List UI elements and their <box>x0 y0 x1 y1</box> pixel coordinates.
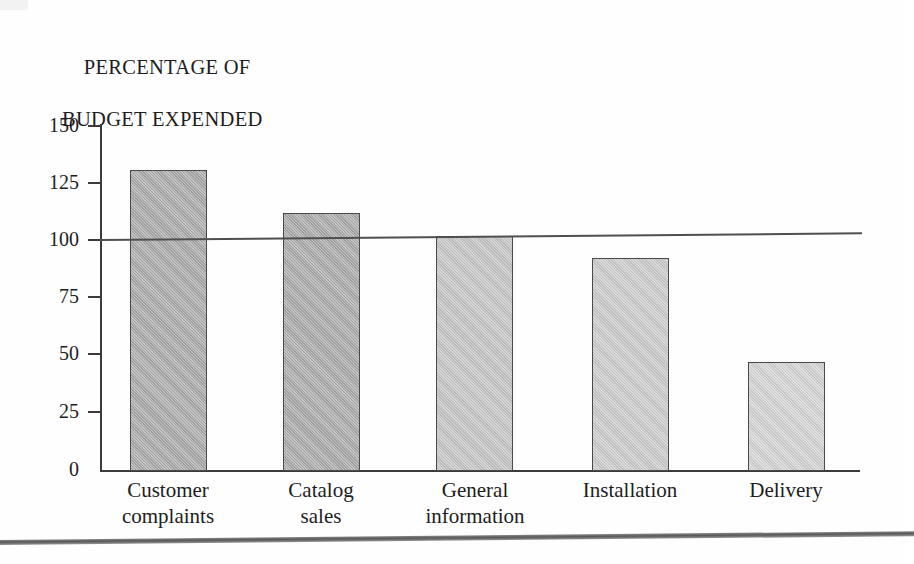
bar-delivery <box>748 362 825 471</box>
tick-mark-icon <box>88 296 101 298</box>
tick-mark-icon <box>88 411 101 413</box>
bar-installation <box>592 258 669 471</box>
bar-general-information <box>436 236 513 471</box>
y-tick-label: 50 <box>23 343 79 363</box>
category-label-line-1: Customer <box>127 478 209 502</box>
tick-mark-icon <box>88 182 101 184</box>
tick-mark-icon <box>88 125 101 127</box>
category-label-line-1: Installation <box>583 478 677 502</box>
y-tick-label: 125 <box>23 172 79 192</box>
bar-customer-complaints <box>130 170 207 471</box>
category-label-line-1: Delivery <box>749 478 822 502</box>
bar-catalog-sales <box>283 213 360 471</box>
category-label-delivery: Delivery <box>691 478 881 504</box>
y-tick-label: 150 <box>23 115 79 135</box>
tick-mark-icon <box>88 353 101 355</box>
y-tick-label: 100 <box>23 229 79 249</box>
category-label-line-2: information <box>380 504 570 530</box>
y-tick-label: 0 <box>23 459 79 479</box>
category-label-line-1: Catalog <box>288 478 353 502</box>
y-tick-label: 75 <box>23 286 79 306</box>
y-tick-label: 25 <box>23 401 79 421</box>
category-label-line-1: General <box>442 478 508 502</box>
y-axis-line <box>100 124 102 472</box>
